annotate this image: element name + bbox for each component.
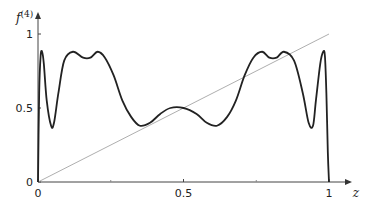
series-f4-curve [38,51,329,182]
x-tick-label: 0 [35,187,42,200]
axis-labels: z f(4) [15,9,360,200]
x-tick-label: 0.5 [175,187,193,200]
y-tick-label: 1 [26,28,33,41]
x-tick-label: 1 [326,187,333,200]
y-axis-arrow-icon [35,12,41,19]
y-axis-label: f(4) [15,9,33,25]
x-axis-label: z [352,186,360,200]
series-group [38,34,329,182]
ticks: 00.5100.51 [16,28,333,200]
y-tick-label: 0.5 [16,102,34,115]
x-axis-arrow-icon [345,179,352,185]
y-tick-label: 0 [26,176,33,189]
chart: 00.5100.51 z f(4) [0,0,370,210]
